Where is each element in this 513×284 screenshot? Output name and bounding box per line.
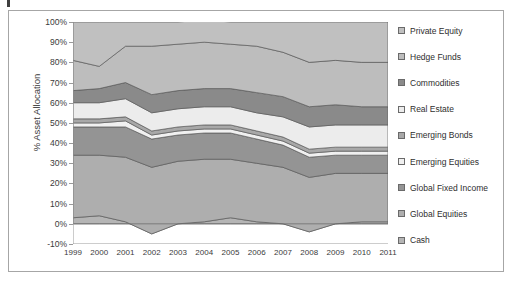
legend-label: Emerging Equities bbox=[410, 157, 479, 167]
y-tick-label: 70% bbox=[50, 79, 67, 87]
legend-item-emerging-equities[interactable]: Emerging Equities bbox=[398, 156, 479, 167]
x-tick-label: 2001 bbox=[113, 248, 139, 257]
y-tick-label: 20% bbox=[50, 179, 67, 187]
y-tick-mark bbox=[69, 42, 73, 43]
legend-label: Cash bbox=[410, 235, 430, 245]
y-tick-mark bbox=[69, 22, 73, 23]
legend-item-global-equities[interactable]: Global Equities bbox=[398, 208, 467, 219]
y-tick-mark bbox=[69, 83, 73, 84]
legend-swatch-icon bbox=[398, 27, 405, 34]
x-tick-label: 1999 bbox=[60, 248, 86, 257]
y-tick-label: 0% bbox=[55, 220, 67, 228]
x-tick-label: 2010 bbox=[349, 248, 375, 257]
scan-artifact bbox=[7, 0, 10, 7]
legend-item-private-equity[interactable]: Private Equity bbox=[398, 25, 462, 36]
legend-label: Emerging Bonds bbox=[410, 130, 473, 140]
legend-swatch-icon bbox=[398, 79, 405, 86]
y-tick-label: 10% bbox=[50, 200, 67, 208]
y-tick-label: 60% bbox=[50, 99, 67, 107]
legend-item-hedge-funds[interactable]: Hedge Funds bbox=[398, 51, 461, 62]
y-tick-mark bbox=[69, 163, 73, 164]
legend-swatch-icon bbox=[398, 158, 405, 165]
chart-figure: % Asset Allocation 100%90%80%70%60%50%40… bbox=[8, 10, 504, 272]
legend-swatch-icon bbox=[398, 132, 405, 139]
y-tick-label: 50% bbox=[50, 119, 67, 127]
legend-item-real-estate[interactable]: Real Estate bbox=[398, 104, 454, 115]
legend-item-cash[interactable]: Cash bbox=[398, 235, 430, 246]
legend-label: Commodities bbox=[410, 78, 460, 88]
y-tick-mark bbox=[69, 204, 73, 205]
x-tick-label: 2000 bbox=[86, 248, 112, 257]
y-tick-mark bbox=[69, 123, 73, 124]
y-tick-mark bbox=[69, 244, 73, 245]
plot-area bbox=[73, 22, 388, 244]
x-tick-label: 2006 bbox=[244, 248, 270, 257]
y-tick-label: 80% bbox=[50, 58, 67, 66]
y-tick-mark bbox=[69, 224, 73, 225]
y-tick-mark bbox=[69, 103, 73, 104]
y-tick-mark bbox=[69, 143, 73, 144]
legend-item-global-fixed-income[interactable]: Global Fixed Income bbox=[398, 182, 488, 193]
legend-swatch-icon bbox=[398, 237, 405, 244]
figure-page: % Asset Allocation 100%90%80%70%60%50%40… bbox=[0, 0, 513, 284]
legend-label: Real Estate bbox=[410, 104, 454, 114]
legend-item-commodities[interactable]: Commodities bbox=[398, 77, 460, 88]
y-tick-label: 30% bbox=[50, 159, 67, 167]
y-tick-label: 40% bbox=[50, 139, 67, 147]
y-tick-label: 100% bbox=[45, 18, 67, 26]
legend-item-emerging-bonds[interactable]: Emerging Bonds bbox=[398, 130, 473, 141]
y-tick-label: 90% bbox=[50, 38, 67, 46]
x-tick-label: 2009 bbox=[323, 248, 349, 257]
y-tick-mark bbox=[69, 62, 73, 63]
x-tick-label: 2002 bbox=[139, 248, 165, 257]
legend-label: Hedge Funds bbox=[410, 52, 461, 62]
legend-swatch-icon bbox=[398, 210, 405, 217]
x-tick-label: 2004 bbox=[191, 248, 217, 257]
x-tick-label: 2003 bbox=[165, 248, 191, 257]
legend-label: Global Fixed Income bbox=[410, 183, 488, 193]
x-tick-label: 2007 bbox=[270, 248, 296, 257]
x-tick-label: 2008 bbox=[296, 248, 322, 257]
stacked-area-chart bbox=[73, 22, 388, 244]
legend-label: Global Equities bbox=[410, 209, 467, 219]
y-tick-label: -10% bbox=[47, 240, 67, 248]
legend-swatch-icon bbox=[398, 184, 405, 191]
x-tick-label: 2005 bbox=[218, 248, 244, 257]
legend-label: Private Equity bbox=[410, 26, 462, 36]
chart-legend: Private EquityHedge FundsCommoditiesReal… bbox=[398, 25, 503, 265]
legend-swatch-icon bbox=[398, 106, 405, 113]
y-axis-tick-labels: 100%90%80%70%60%50%40%30%20%10%0%-10% bbox=[9, 11, 67, 273]
legend-swatch-icon bbox=[398, 53, 405, 60]
y-tick-mark bbox=[69, 183, 73, 184]
